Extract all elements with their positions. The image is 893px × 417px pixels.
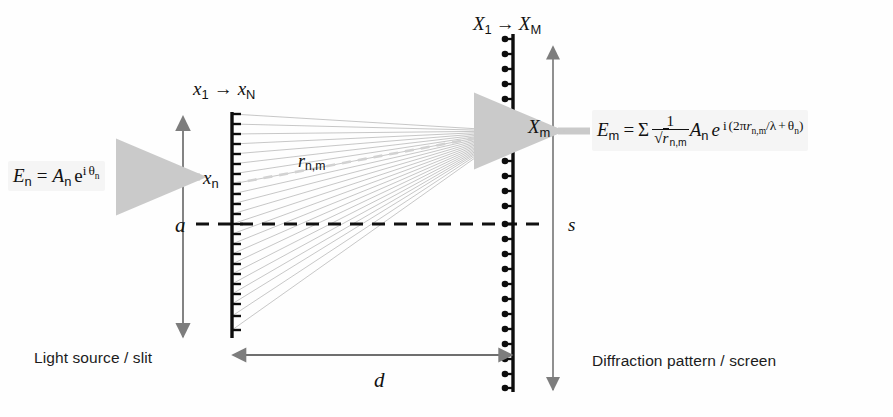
diffraction-screen: [502, 34, 513, 392]
source-eq-amplitude: A: [53, 165, 65, 186]
slit-range-arrow-icon: →: [209, 78, 238, 99]
screen-point-symbol: X: [528, 116, 540, 137]
screen-eq-radicand-sub: n,m: [669, 137, 686, 148]
source-eq-exp-theta-sub: n: [95, 171, 100, 181]
screen-range-start-sub: 1: [485, 22, 492, 37]
ray-bundle: [232, 114, 513, 330]
screen-range-end-sub: M: [530, 22, 541, 37]
screen-eq-exp-two-pi: 2π: [733, 118, 746, 133]
screen-eq-prefactor-fraction: 1√rn,m: [652, 113, 688, 148]
screen-index-range-label: X1→XM: [473, 14, 541, 37]
screen-range-start: X: [473, 13, 485, 34]
screen-eq-lhs: E: [597, 119, 609, 140]
light-source-caption: Light source / slit: [34, 350, 152, 366]
source-eq-lhs-sub: n: [25, 174, 32, 189]
screen-eq-exp-plus: +: [776, 118, 788, 133]
slit-range-end: x: [238, 78, 246, 99]
screen-range-end: X: [519, 13, 531, 34]
screen-range-arrow-icon: →: [492, 13, 519, 34]
screen-eq-radical-icon: √: [654, 129, 662, 146]
screen-eq-exp-r-sub: n,m: [752, 126, 767, 136]
ray-label-sub: n,m: [305, 159, 325, 173]
diffraction-diagram: x1→xN X1→XM En=Aneiθn Em=Σ1√rn,mAnei(2πr…: [0, 0, 893, 417]
screen-eq-amplitude: A: [690, 119, 702, 140]
source-field-equation: En=Aneiθn: [8, 161, 105, 191]
screen-eq-exp-close-paren: ): [799, 118, 803, 133]
source-eq-lhs: E: [13, 165, 25, 186]
screen-eq-frac-denominator: √rn,m: [652, 129, 688, 149]
screen-eq-exp-i: i: [720, 118, 727, 133]
slit-index-range-label: x1→xN: [193, 79, 255, 102]
screen-eq-frac-numerator: 1: [652, 113, 688, 129]
slit-point-sub: n: [211, 176, 218, 191]
screen-point-label: Xm: [528, 117, 550, 140]
screen-eq-lhs-sub: m: [609, 128, 620, 143]
ray-distance-label: rn,m: [298, 152, 325, 173]
slit-height-label: a: [175, 215, 186, 236]
screen-eq-sum-icon: Σ: [638, 119, 651, 140]
slit-range-start-sub: 1: [201, 87, 208, 102]
screen-eq-exp-over-lambda: /λ: [766, 118, 776, 133]
slit-point-label: xn: [203, 168, 219, 191]
diffraction-screen-caption: Diffraction pattern / screen: [592, 353, 776, 369]
screen-eq-equals: =: [619, 119, 638, 140]
slit-range-end-sub: N: [246, 87, 255, 102]
source-eq-equals: =: [32, 165, 53, 186]
source-eq-exp-theta: θ: [86, 163, 94, 178]
separation-distance-label: d: [374, 370, 385, 391]
source-eq-exp-base: e: [71, 165, 82, 186]
ray-label-symbol: r: [298, 151, 305, 171]
screen-height-label: s: [568, 215, 575, 234]
screen-field-equation: Em=Σ1√rn,mAnei(2πrn,m/λ+θn): [592, 110, 808, 151]
screen-point-sub: m: [540, 125, 551, 140]
slit-aperture: [232, 112, 243, 338]
screen-eq-exp-base: e: [708, 119, 719, 140]
